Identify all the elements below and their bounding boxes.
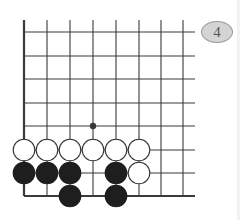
black-stone	[13, 162, 35, 184]
white-stone	[128, 139, 150, 161]
black-stone	[36, 162, 58, 184]
page-edge	[237, 0, 240, 220]
white-stone	[105, 139, 127, 161]
black-stone	[59, 185, 81, 207]
white-stone	[13, 139, 35, 161]
white-stone	[36, 139, 58, 161]
white-stone	[59, 139, 81, 161]
black-stone	[105, 185, 127, 207]
white-stone	[128, 162, 150, 184]
white-stone	[82, 139, 104, 161]
black-stone	[105, 162, 127, 184]
problem-number: 4	[213, 24, 221, 41]
black-stone	[59, 162, 81, 184]
problem-number-badge: 4	[201, 21, 233, 43]
star-point	[90, 123, 96, 129]
